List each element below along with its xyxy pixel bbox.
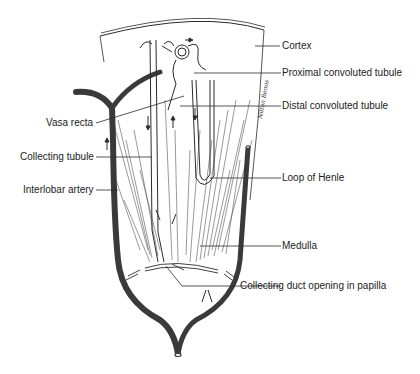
label-interlobar-artery: Interlobar artery [23, 184, 94, 196]
label-distal-convoluted-tubule: Distal convoluted tubule [282, 100, 388, 112]
label-collecting-tubule: Collecting tubule [20, 151, 94, 163]
label-collecting-duct-opening: Collecting duct opening in papilla [240, 280, 386, 292]
label-medulla: Medulla [282, 240, 317, 252]
medulla-striations [110, 100, 252, 262]
label-cortex: Cortex [282, 40, 311, 52]
cortex-boundary [100, 18, 265, 200]
interlobar-artery-vessel [76, 72, 250, 357]
label-loop-of-henle: Loop of Henle [282, 172, 344, 184]
papilla [126, 263, 234, 280]
label-proximal-convoluted-tubule: Proximal convoluted tubule [282, 67, 402, 79]
label-vasa-recta: Vasa recta [46, 117, 93, 129]
